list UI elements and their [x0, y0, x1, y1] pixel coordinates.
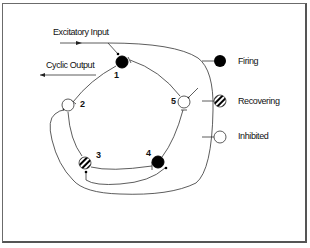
legend-filled-circle-icon [214, 55, 226, 67]
legend-recovering-label: Recovering [238, 96, 280, 106]
node-4-label: 4 [146, 148, 151, 158]
node-5-label: 5 [171, 96, 176, 106]
legend-firing-label: Firing [238, 56, 258, 66]
node-4-firing [152, 156, 164, 168]
node-1-firing [116, 56, 128, 68]
legend-open-circle-icon [214, 131, 226, 143]
node-2-label: 2 [80, 99, 85, 109]
excitatory-input-label: Excitatory Input [53, 27, 109, 37]
oscillator-network-diagram [0, 0, 310, 248]
node-1-label: 1 [114, 70, 119, 80]
node-3-label: 3 [96, 150, 101, 160]
legend-inhibited-label: Inhibited [238, 131, 268, 141]
cyclic-output-label: Cyclic Output [46, 60, 94, 70]
node-5-inhibited [178, 96, 190, 108]
legend-striped-circle-icon [214, 95, 226, 107]
node-2-inhibited [62, 99, 74, 111]
node-3-recovering [79, 157, 91, 169]
